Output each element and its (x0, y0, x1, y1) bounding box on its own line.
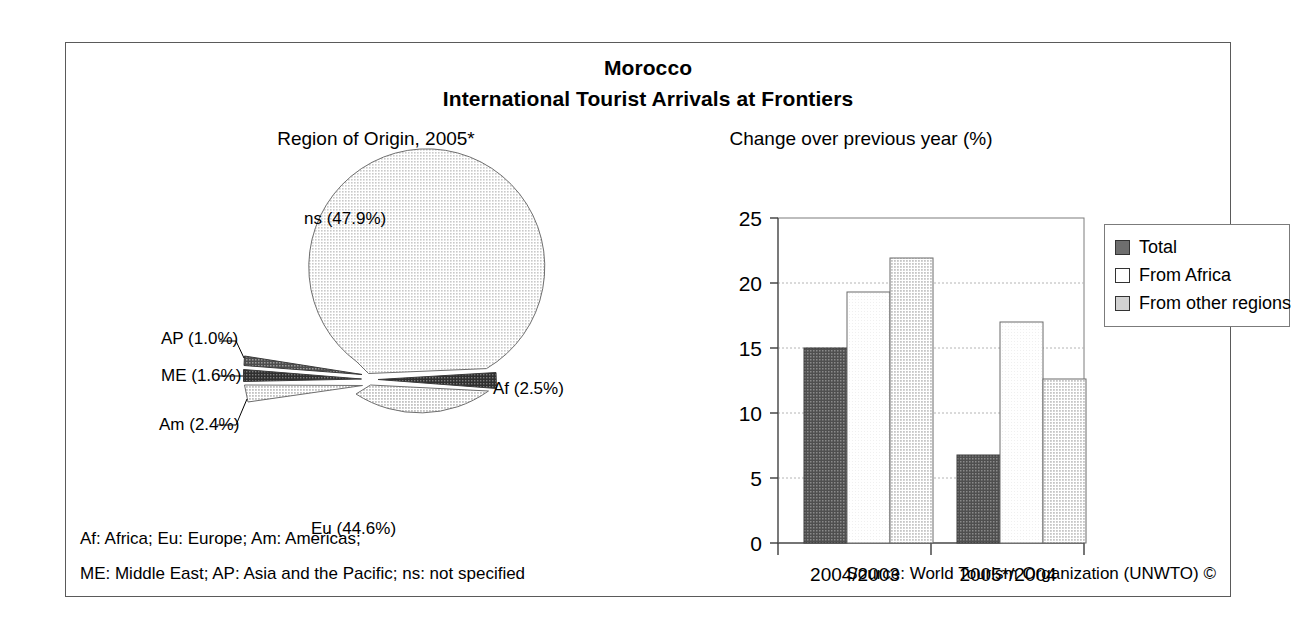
legend-item-from-other-regions[interactable]: From other regions (1115, 289, 1279, 317)
bar-other-2004 (890, 258, 933, 543)
legend-label-from-africa: From Africa (1139, 265, 1231, 286)
y-tick-label-0: 0 (750, 532, 762, 555)
legend-label-from-other-regions: From other regions (1139, 293, 1291, 314)
chart-frame: Morocco International Tourist Arrivals a… (65, 42, 1231, 597)
page-subtitle: International Tourist Arrivals at Fronti… (66, 87, 1230, 111)
pie-slice-am (245, 385, 363, 402)
chart-legend: Total From Africa From other regions (1104, 224, 1290, 327)
footnote-line-1: Af: Africa; Eu: Europe; Am: Americas; (80, 529, 361, 549)
legend-swatch-from-africa-icon (1115, 268, 1130, 283)
chart-page: Morocco International Tourist Arrivals a… (0, 0, 1293, 638)
pie-chart: ns (47.9%) Eu (44.6%) Af (2.5%) AP (1.0%… (66, 113, 656, 573)
pie-label-af: Af (2.5%) (493, 379, 564, 399)
pie-slice-eu (356, 385, 489, 413)
pie-label-ap: AP (1.0%) (161, 329, 238, 349)
bar-africa-2005 (1000, 322, 1043, 543)
bar-total-2004 (804, 348, 847, 543)
bar-chart-graphic: 25 20 15 10 5 0 2004/2003 2005*/2004 (666, 113, 1293, 583)
legend-swatch-from-other-regions-icon (1115, 296, 1130, 311)
bar-africa-2004 (847, 292, 890, 543)
legend-item-total[interactable]: Total (1115, 233, 1279, 261)
source-credit: Source: World Tourism Organization (UNWT… (846, 564, 1216, 584)
y-tick-label-25: 25 (739, 207, 762, 230)
pie-slice-ns (309, 149, 545, 374)
y-tick-label-5: 5 (750, 467, 762, 490)
legend-item-from-africa[interactable]: From Africa (1115, 261, 1279, 289)
y-tick-label-20: 20 (739, 272, 762, 295)
legend-swatch-total-icon (1115, 240, 1130, 255)
pie-label-ns: ns (47.9%) (304, 209, 386, 229)
pie-chart-graphic (66, 113, 656, 573)
y-tick-label-10: 10 (739, 402, 762, 425)
bar-other-2005 (1043, 379, 1086, 543)
legend-label-total: Total (1139, 237, 1177, 258)
y-tick-label-15: 15 (739, 337, 762, 360)
footnote-line-2: ME: Middle East; AP: Asia and the Pacifi… (80, 564, 525, 584)
page-title: Morocco (66, 56, 1230, 80)
pie-label-me: ME (1.6%) (161, 366, 241, 386)
pie-label-am: Am (2.4%) (159, 415, 239, 435)
bar-chart: 25 20 15 10 5 0 2004/2003 2005*/2004 (666, 113, 1293, 583)
bar-total-2005 (957, 455, 1000, 543)
